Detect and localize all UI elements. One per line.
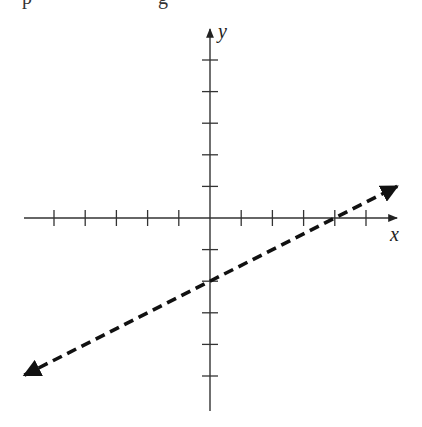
dashed-line <box>24 186 397 375</box>
y-axis-label: y <box>216 20 227 43</box>
dashed-line-series <box>24 186 397 375</box>
x-axis-label: x <box>389 223 399 245</box>
coordinate-plane: x y <box>0 0 422 427</box>
